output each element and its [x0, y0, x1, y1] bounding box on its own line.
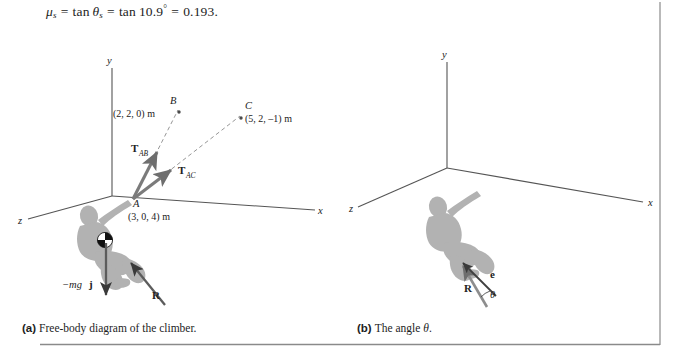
x-axis-line-a [112, 196, 315, 210]
vector-label-tab-symbol: T [131, 142, 139, 154]
y-axis-label-a: y [106, 55, 112, 66]
weight-label-unit-vector: j [88, 278, 93, 290]
vector-label-r-b: R [464, 282, 473, 294]
panel-a-axes [28, 68, 315, 219]
figure-container: μs=tan θs=tan 10.9°=0.193. [0, 0, 688, 356]
caption-tag-a: (a) [22, 322, 39, 334]
figure-border [40, 2, 660, 345]
climber-silhouette-b [426, 191, 494, 281]
z-axis-label-b: z [348, 203, 353, 214]
point-label-a: A [132, 198, 140, 209]
vector-label-tac-subscript: AC [185, 171, 197, 180]
panel-b-diagram: y x z R e θ [348, 49, 653, 307]
vector-label-tab-subscript: AB [138, 149, 149, 158]
point-coords-c: (5, 2, –1) m [245, 113, 292, 125]
panel-b-axes [358, 62, 643, 207]
vector-label-e: e [490, 268, 495, 280]
point-label-c: C [245, 100, 253, 111]
x-axis-label-b: x [647, 197, 653, 208]
z-axis-label-a: z [17, 215, 22, 226]
x-axis-label-a: x [317, 205, 323, 216]
caption-text-a: Free-body diagram of the climber. [39, 322, 196, 334]
angle-arc-theta [481, 291, 490, 297]
vector-label-tab: T AB [131, 142, 149, 158]
weight-label-prefix: −mg [62, 279, 82, 290]
y-axis-label-b: y [441, 49, 447, 60]
caption-text-b-post: . [429, 322, 432, 334]
vector-label-r-a: R [152, 289, 161, 301]
point-marker-c [239, 116, 242, 119]
z-axis-line-a [28, 196, 112, 219]
caption-panel-a: (a)Free-body diagram of the climber. [22, 322, 197, 334]
point-coords-b: (2, 2, 0) m [113, 108, 155, 120]
figure-svg: y x z B (2, 2, 0) m C (5, 2, –1) m A (3,… [0, 0, 688, 356]
weight-label-a: −mg j [62, 278, 93, 290]
point-label-b: B [170, 95, 177, 106]
point-marker-b [177, 110, 180, 113]
vector-label-tac: T AC [178, 164, 197, 180]
point-coords-a: (3, 0, 4) m [128, 211, 170, 223]
vector-label-tac-symbol: T [178, 164, 186, 176]
caption-text-b-pre: The angle [375, 322, 424, 334]
panel-a-diagram: y x z B (2, 2, 0) m C (5, 2, –1) m A (3,… [17, 55, 323, 305]
angle-label-theta: θ [490, 289, 495, 300]
caption-panel-b: (b)The angle θ. [357, 322, 432, 334]
vector-arrow-tab [133, 152, 157, 199]
caption-tag-b: (b) [357, 322, 375, 334]
